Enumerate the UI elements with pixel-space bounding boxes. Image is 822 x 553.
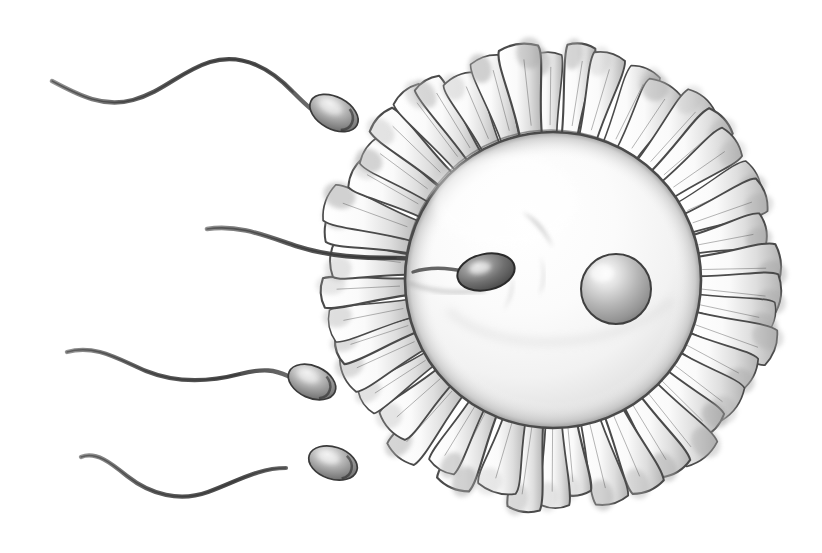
pronucleus bbox=[581, 254, 651, 324]
fertilization-illustration bbox=[0, 0, 822, 553]
pronucleus-highlight bbox=[590, 264, 614, 282]
pronucleus-body bbox=[581, 254, 651, 324]
ovum bbox=[405, 132, 701, 428]
illustration-canvas bbox=[0, 0, 822, 553]
ovum-highlight bbox=[433, 154, 577, 246]
